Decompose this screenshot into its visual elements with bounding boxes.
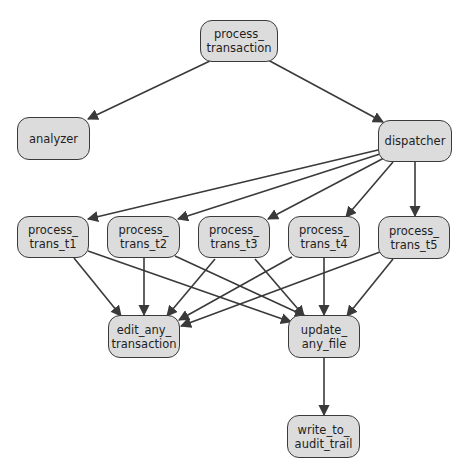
edge-dispatcher-to-process_trans_t4: [346, 162, 393, 217]
edge-process_trans_t1-to-edit_any_transaction: [74, 258, 121, 316]
node-label: write_to_ audit_trail: [295, 423, 353, 451]
node-process-transaction: process_ transaction: [200, 20, 278, 62]
node-label: update_ any_file: [301, 323, 347, 351]
node-dispatcher: dispatcher: [378, 120, 452, 162]
edge-process_trans_t3-to-update_any_file: [255, 259, 304, 316]
node-label: process_ trans_t4: [299, 223, 349, 251]
edge-dispatcher-to-process_trans_t2: [178, 154, 380, 219]
node-label: process_ trans_t1: [28, 223, 78, 251]
node-label: process_ trans_t3: [209, 223, 259, 251]
edge-process_trans_t1-to-update_any_file: [88, 251, 291, 322]
edge-process_trans_t5-to-update_any_file: [347, 259, 393, 316]
node-process-trans-t3: process_ trans_t3: [198, 216, 270, 258]
node-label: process_ transaction: [207, 27, 272, 55]
edge-process_transaction-to-dispatcher: [268, 60, 383, 122]
edge-process_trans_t3-to-edit_any_transaction: [167, 259, 215, 316]
edge-process_transaction-to-analyzer: [88, 60, 212, 119]
node-label: process_ trans_t5: [389, 224, 439, 252]
edge-dispatcher-to-process_trans_t3: [268, 158, 384, 219]
node-process-trans-t1: process_ trans_t1: [17, 216, 89, 258]
node-write-to-audit-trail: write_to_ audit_trail: [287, 415, 360, 458]
node-update-any-file: update_ any_file: [288, 315, 360, 358]
node-process-trans-t4: process_ trans_t4: [288, 216, 360, 258]
node-process-trans-t2: process_ trans_t2: [107, 216, 180, 258]
node-edit-any-transaction: edit_any_ transaction: [108, 315, 180, 358]
node-label: analyzer: [29, 132, 78, 146]
node-label: process_ trans_t2: [119, 223, 169, 251]
node-label: edit_any_ transaction: [112, 323, 177, 351]
node-analyzer: analyzer: [17, 117, 90, 160]
node-label: dispatcher: [385, 134, 446, 148]
node-process-trans-t5: process_ trans_t5: [378, 216, 450, 259]
